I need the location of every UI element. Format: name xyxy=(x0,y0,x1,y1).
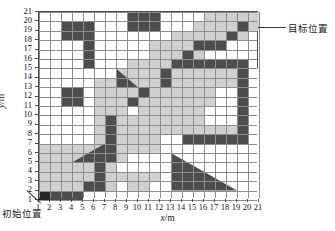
y-tick xyxy=(35,180,38,181)
obstacle-block xyxy=(127,97,138,106)
obstacle-block xyxy=(61,87,83,106)
y-tick xyxy=(35,77,38,78)
figure-root: 1234567891011121314151617181920211234567… xyxy=(0,0,335,231)
y-tick-label: 21 xyxy=(18,7,32,16)
grid-line-vertical xyxy=(259,12,260,198)
grid-map-plot xyxy=(38,11,258,199)
y-tick-label: 16 xyxy=(18,54,32,63)
obstacle-block xyxy=(226,31,237,40)
y-tick xyxy=(35,67,38,68)
y-axis-symbol: y xyxy=(0,104,6,108)
y-tick xyxy=(35,133,38,134)
y-tick xyxy=(35,124,38,125)
y-tick-label: 3 xyxy=(18,176,32,185)
x-axis-unit: /m xyxy=(165,213,175,223)
y-axis-unit: /m xyxy=(0,94,6,104)
obstacle-block xyxy=(171,59,182,68)
y-tick-label: 18 xyxy=(18,35,32,44)
y-axis-title: y/m xyxy=(0,94,6,108)
obstacle-block xyxy=(83,40,94,68)
y-tick xyxy=(35,171,38,172)
free-region xyxy=(204,106,237,125)
x-tick-label: 21 xyxy=(249,203,267,212)
y-tick-label: 4 xyxy=(18,166,32,175)
y-tick xyxy=(35,105,38,106)
goal-leader-line xyxy=(258,27,286,28)
y-tick-label: 17 xyxy=(18,44,32,53)
obstacle-block xyxy=(94,181,105,190)
obstacle-block xyxy=(105,115,116,162)
grid-cells-layer xyxy=(39,12,257,198)
y-tick-label: 11 xyxy=(18,101,32,110)
free-region xyxy=(127,153,149,172)
free-region xyxy=(116,181,127,190)
free-region xyxy=(94,12,116,50)
y-tick-label: 7 xyxy=(18,138,32,147)
free-region xyxy=(215,87,237,106)
y-tick xyxy=(35,152,38,153)
obstacle-block xyxy=(160,68,171,87)
y-tick-label: 19 xyxy=(18,25,32,34)
free-region xyxy=(215,50,237,59)
obstacle-block xyxy=(94,162,105,181)
obstacle-block xyxy=(50,191,83,200)
y-tick-label: 10 xyxy=(18,110,32,119)
y-tick-label: 13 xyxy=(18,82,32,91)
y-tick-label: 8 xyxy=(18,129,32,138)
start-position-label: 初始位置 xyxy=(2,206,42,220)
y-tick xyxy=(35,20,38,21)
y-tick xyxy=(35,39,38,40)
y-tick-label: 15 xyxy=(18,63,32,72)
x-axis-title: x/m xyxy=(0,213,335,223)
obstacle-block xyxy=(61,21,94,40)
free-region xyxy=(127,31,149,59)
y-tick-label: 14 xyxy=(18,72,32,81)
y-tick xyxy=(35,161,38,162)
obstacle-block xyxy=(127,12,160,31)
obstacle-block xyxy=(83,181,94,190)
obstacle-block xyxy=(237,59,248,144)
goal-position-label: 目标位置 xyxy=(288,21,328,35)
y-tick xyxy=(35,143,38,144)
y-tick-label: 20 xyxy=(18,16,32,25)
start-leader-line xyxy=(27,190,41,204)
y-tick xyxy=(35,86,38,87)
y-tick xyxy=(35,11,38,12)
y-tick xyxy=(35,96,38,97)
obstacle-block xyxy=(182,134,248,143)
obstacle-block xyxy=(193,40,226,49)
y-tick xyxy=(35,49,38,50)
free-region xyxy=(171,12,193,31)
y-tick xyxy=(35,114,38,115)
obstacle-block xyxy=(182,50,193,59)
obstacle-block xyxy=(138,87,149,96)
y-tick-label: 5 xyxy=(18,157,32,166)
free-region xyxy=(237,144,259,191)
y-tick xyxy=(35,30,38,31)
y-tick xyxy=(35,58,38,59)
obstacle-block xyxy=(237,21,248,30)
y-tick-label: 12 xyxy=(18,91,32,100)
y-tick-label: 6 xyxy=(18,148,32,157)
y-tick-label: 9 xyxy=(18,119,32,128)
free-region xyxy=(149,181,160,190)
